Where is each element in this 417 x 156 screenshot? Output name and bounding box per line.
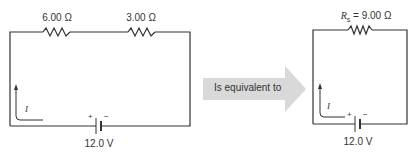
current-label-left: I [25, 104, 28, 114]
resistor-equivalent [348, 26, 372, 34]
current-arrow-left [14, 84, 43, 120]
resistor-value: = 9.00 Ω [350, 10, 391, 21]
battery-voltage-right: 12.0 V [344, 137, 373, 147]
current-arrow-right [318, 83, 345, 117]
battery-left [96, 118, 101, 134]
resistor-3-ohm [128, 28, 155, 36]
battery-plus-left: + [88, 113, 93, 121]
battery-voltage-left: 12.0 V [85, 139, 114, 149]
equivalence-label: Is equivalent to [214, 82, 302, 93]
resistor-6-ohm [43, 28, 70, 36]
circuit-diagram [0, 0, 417, 156]
resistor-3-ohm-label: 3.00 Ω [126, 13, 156, 23]
current-label-right: I [327, 101, 330, 111]
battery-plus-right: + [347, 111, 352, 119]
left-circuit-wires [10, 32, 190, 126]
battery-right [355, 116, 360, 132]
battery-minus-right: − [363, 111, 368, 119]
battery-minus-left: − [104, 113, 109, 121]
equivalent-resistor-label: Rs = 9.00 Ω [341, 11, 392, 23]
resistor-6-ohm-label: 6.00 Ω [42, 13, 72, 23]
